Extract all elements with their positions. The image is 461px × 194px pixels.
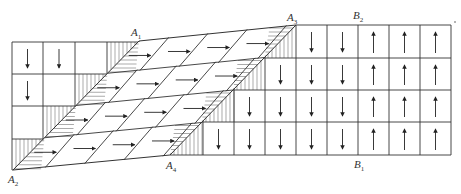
stray-dot (454, 21, 456, 23)
grid-line (139, 25, 296, 41)
grid-line (77, 102, 106, 135)
point-label-a4: A4 (165, 159, 177, 174)
grid-line (218, 29, 247, 62)
label-subscript: 3 (294, 18, 298, 26)
grid-line (45, 123, 202, 138)
grid-line (187, 62, 216, 95)
label-subscript: 1 (361, 165, 365, 173)
grid-line (155, 94, 184, 127)
grid-line (45, 134, 74, 167)
grid-line (179, 33, 208, 66)
grid-line (195, 90, 224, 123)
hatched-boundary-regions (14, 28, 293, 169)
point-labels: A1A2A3A4B1B2 (7, 9, 456, 188)
point-label-a1: A1 (130, 26, 142, 41)
domain-diagram: A1A2A3A4B1B2 (0, 0, 461, 194)
grid-line (163, 123, 192, 156)
grid-line (85, 130, 114, 163)
label-subscript: 4 (173, 166, 177, 174)
point-label-b2: B2 (353, 9, 364, 24)
label-subscript: 1 (138, 33, 142, 41)
grid-line (108, 70, 137, 103)
point-label-b1: B1 (354, 158, 365, 173)
point-label-a2: A2 (7, 173, 19, 188)
label-subscript: 2 (15, 180, 19, 188)
grid-line (124, 127, 153, 160)
grid-line (116, 98, 145, 131)
grid-line (226, 58, 255, 91)
point-label-a3: A3 (286, 11, 298, 26)
grid-line (140, 37, 169, 70)
label-subscript: 2 (360, 16, 364, 24)
diagram-canvas: A1A2A3A4B1B2 (0, 0, 461, 194)
grid-line (13, 155, 170, 170)
grid-line (148, 66, 177, 99)
